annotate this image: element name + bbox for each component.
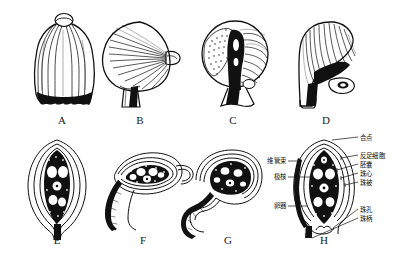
panel-letter-a: A (58, 114, 66, 126)
panel-letter-d: D (322, 114, 330, 126)
panel-letter-b: B (136, 114, 143, 126)
label-embryo-sac: 胚囊 (360, 160, 373, 169)
panel-letter-e: E (54, 234, 61, 246)
label-vascular-bundle: 维管束 (267, 156, 286, 165)
label-chalaza: 合点 (360, 133, 373, 142)
panel-letter-c: C (229, 114, 236, 126)
panel-letter-g: G (224, 234, 232, 246)
figure-root: A B (0, 0, 407, 269)
label-micropyle: 珠孔 (360, 205, 373, 214)
label-polar-nuclei: 极核 (274, 172, 287, 181)
panel-letter-f: F (140, 234, 146, 246)
panel-letter-h: H (320, 234, 328, 246)
label-nucellus: 珠心 (360, 169, 373, 178)
micropyle-cap (55, 14, 73, 27)
figure-background (0, 0, 407, 269)
label-egg-apparatus: 卵器 (274, 201, 287, 210)
label-antipodal-cells: 反足细胞 (360, 151, 386, 160)
label-funiculus: 珠柄 (360, 214, 373, 223)
label-integument: 珠被 (360, 178, 373, 187)
ovule-figure-svg: A B (0, 0, 407, 269)
embryo-sac-hint (243, 80, 255, 89)
